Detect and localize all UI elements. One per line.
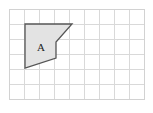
polygon-label-a: A (37, 41, 45, 53)
grid-canvas: A (0, 0, 153, 113)
grid-figure: A (0, 0, 153, 113)
